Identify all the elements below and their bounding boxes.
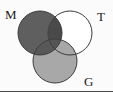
set-label-t: T — [97, 10, 105, 23]
set-label-g: G — [84, 75, 94, 88]
figure-baseline-rule — [0, 91, 113, 92]
set-label-m: M — [5, 8, 17, 21]
venn-diagram-figure: M T G — [0, 0, 113, 92]
